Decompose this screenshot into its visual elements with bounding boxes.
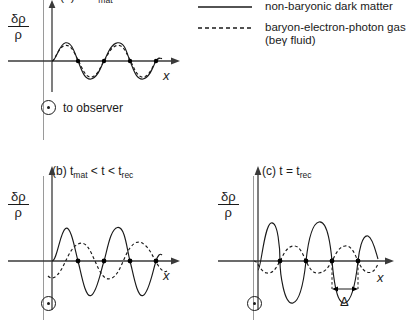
panel-b-xlabel: x xyxy=(163,268,170,283)
panel-c-x-arrow xyxy=(385,258,394,265)
circled-dot-icon xyxy=(247,296,262,311)
panel-a-y-arrow xyxy=(49,0,56,8)
panel-c-delta-label: Δ xyxy=(340,294,349,309)
panel-b-y-arrow xyxy=(49,166,56,175)
panel-c-curve-solid xyxy=(258,222,378,303)
panel-a-x-arrow xyxy=(171,58,180,65)
dashed-line-icon xyxy=(196,21,254,35)
panel-b-node-dot xyxy=(76,259,81,264)
panel-b-node-dot xyxy=(154,259,159,264)
panel-c-y-arrow xyxy=(255,166,262,175)
legend-label-dashed-main: baryon-electron-photon gas xyxy=(265,21,406,33)
panel-a-node-dot xyxy=(128,59,132,63)
panel-a-observer-label: to observer xyxy=(63,101,123,115)
panel-c-node-dot xyxy=(278,259,283,264)
legend-item-solid: non-baryonic dark matter xyxy=(196,0,420,14)
panel-a-node-dot xyxy=(154,59,158,63)
panel-c-node-dot xyxy=(304,259,309,264)
legend-item-dashed: baryon-electron-photon gas (beγ fluid) xyxy=(196,21,420,47)
panel-a-xlabel: x xyxy=(163,68,170,83)
solid-line-icon xyxy=(196,0,254,14)
legend-label-solid: non-baryonic dark matter xyxy=(265,0,393,13)
circled-dot-icon xyxy=(41,296,56,311)
panel-b: (b) tmat < t < trec δρ ρ x xyxy=(0,158,210,320)
panel-b-node-dot xyxy=(128,259,133,264)
panel-b-plot xyxy=(0,158,210,320)
legend-label-dashed: baryon-electron-photon gas (beγ fluid) xyxy=(265,21,406,47)
panel-c-delta-arrow-right xyxy=(352,287,358,292)
figure-root: non-baryonic dark matter baryon-electron… xyxy=(0,0,420,320)
panel-b-x-arrow xyxy=(171,258,180,265)
panel-a-node-dot xyxy=(102,59,106,63)
panel-c-xlabel: x xyxy=(377,270,384,285)
panel-c-observer xyxy=(247,296,269,311)
legend-label-dashed-sub: (beγ fluid) xyxy=(265,34,406,47)
panel-b-node-dot xyxy=(102,259,107,264)
circled-dot-icon xyxy=(41,100,56,115)
legend-label-solid-main: non-baryonic dark matter xyxy=(265,0,393,12)
panel-a: (a) t < tmat δρ ρ x to obs xyxy=(0,0,196,140)
panel-b-observer xyxy=(41,296,63,311)
panel-a-node-dot xyxy=(76,59,80,63)
legend: non-baryonic dark matter baryon-electron… xyxy=(196,0,420,54)
panel-c-plot xyxy=(210,158,420,320)
panel-a-observer: to observer xyxy=(41,100,123,115)
panel-c: (c) t = trec δρ ρ xyxy=(210,158,420,320)
